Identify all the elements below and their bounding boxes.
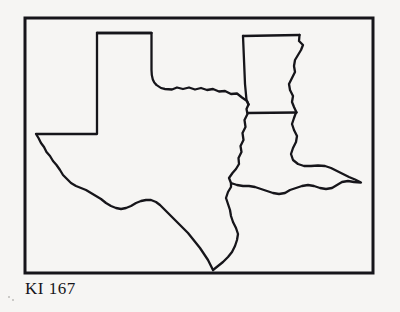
- paper-speck: [12, 299, 14, 301]
- state-boundaries-group: [36, 33, 361, 270]
- figure-container: KI 167: [0, 0, 400, 312]
- texas-west-and-gulf: [36, 33, 213, 270]
- figure-border: [25, 18, 373, 273]
- arkansas-louisiana-border: [248, 113, 297, 114]
- oklahoma-arkansas-north-border: [243, 35, 300, 36]
- oklahoma-arkansas-border: [243, 36, 249, 105]
- figure-caption: KI 167: [25, 280, 76, 297]
- map-figure: [0, 0, 400, 312]
- texas-outline: [97, 33, 249, 105]
- gulf-coast-louisiana: [213, 113, 361, 271]
- paper-speck: [8, 296, 10, 298]
- figure-border-group: [25, 18, 373, 273]
- texas-louisiana-and-sabine: [229, 105, 249, 184]
- mississippi-river-border: [289, 35, 303, 113]
